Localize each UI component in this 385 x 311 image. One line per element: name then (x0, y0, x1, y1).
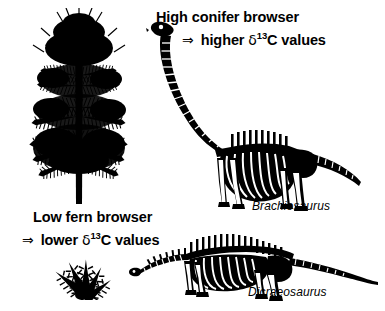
isotope-superscript-bottom: 13 (90, 230, 100, 241)
isotope-superscript-top: 13 (257, 30, 267, 41)
isotope-element-bottom: C values (101, 232, 160, 248)
low-fern-browser-caption: Low fern browser (33, 210, 152, 225)
fern-silhouette-icon (48, 252, 116, 300)
brachiosaurus-species-label: Brachiosaurus (252, 200, 330, 212)
lower-d13c-caption: ⇒ lower δ13C values (22, 231, 159, 247)
dicraeosaurus-species-label: Dicraeosaurus (248, 286, 327, 298)
conifer-tree-silhouette-icon (8, 8, 150, 208)
higher-word: higher (201, 32, 249, 48)
lower-word: lower (41, 232, 82, 248)
implies-arrow-bottom: ⇒ (22, 232, 41, 248)
high-conifer-browser-caption: High conifer browser (156, 10, 299, 25)
delta-symbol-top: δ (248, 32, 256, 48)
sauropod-browsing-figure: High conifer browser ⇒ higher δ13C value… (0, 0, 385, 311)
higher-d13c-caption: ⇒ higher δ13C values (182, 31, 326, 47)
implies-arrow-top: ⇒ (182, 32, 201, 48)
isotope-element-top: C values (267, 32, 326, 48)
